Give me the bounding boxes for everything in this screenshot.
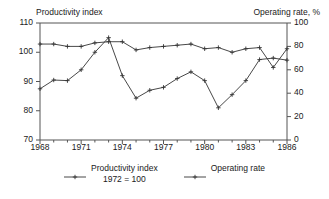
x-axis-tick-1971: 1971 bbox=[72, 142, 91, 152]
x-axis-tick-1974: 1974 bbox=[113, 142, 132, 152]
legend-label: Productivity index1972 = 100 bbox=[91, 163, 158, 185]
right-axis-tick-80: 80 bbox=[294, 40, 303, 50]
left-axis-tick-80: 80 bbox=[0, 105, 33, 115]
x-axis-tick-1977: 1977 bbox=[154, 142, 173, 152]
left-axis-tick-100: 100 bbox=[0, 46, 33, 56]
legend-item-operating-rate[interactable]: Operating rate bbox=[184, 163, 265, 185]
right-axis-tick-100: 100 bbox=[294, 17, 308, 27]
left-axis-tick-110: 110 bbox=[0, 17, 33, 27]
chart-legend: Productivity index1972 = 100Operating ra… bbox=[0, 163, 329, 185]
left-axis-tick-90: 90 bbox=[0, 76, 33, 86]
legend-line-marker-icon bbox=[64, 167, 86, 185]
right-axis-tick-60: 60 bbox=[294, 64, 303, 74]
legend-line-marker-icon bbox=[184, 167, 206, 185]
chart-figure: Productivity index Operating rate, % 708… bbox=[0, 0, 329, 199]
x-axis-tick-1968: 1968 bbox=[31, 142, 50, 152]
x-axis-tick-1983: 1983 bbox=[236, 142, 255, 152]
right-axis-tick-20: 20 bbox=[294, 111, 303, 121]
legend-sublabel: 1972 = 100 bbox=[91, 174, 158, 185]
x-axis-tick-1986: 1986 bbox=[278, 142, 297, 152]
right-axis-tick-40: 40 bbox=[294, 87, 303, 97]
legend-label: Operating rate bbox=[211, 163, 265, 174]
x-axis-tick-1980: 1980 bbox=[195, 142, 214, 152]
left-axis-tick-70: 70 bbox=[0, 134, 33, 144]
legend-item-productivity-index[interactable]: Productivity index1972 = 100 bbox=[64, 163, 158, 185]
